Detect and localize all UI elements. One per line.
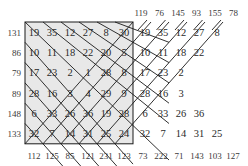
shifted-cell-value: 7	[160, 128, 165, 139]
grid-cell-value: 7	[49, 128, 54, 139]
row-sum-label: 133	[8, 129, 22, 139]
anti-diagonal-sum-label: 145	[171, 8, 185, 18]
column-sum-label: 231	[99, 151, 113, 161]
grid-cell-value: 31	[83, 128, 94, 139]
shifted-cell-value: 10	[140, 47, 151, 58]
grid-cell-value: 9	[121, 88, 126, 99]
shifted-cell-value: 14	[176, 128, 187, 139]
diagonal-sum-label: 73	[139, 151, 149, 161]
diagonal-sum-label: 143	[190, 151, 204, 161]
shifted-cell-value: 17	[140, 67, 151, 78]
shifted-cell-value: 26	[176, 108, 187, 119]
grid-cell-value: 6	[31, 108, 36, 119]
shifted-cell-value: 16	[158, 88, 169, 99]
grid-cell-value: 30	[119, 27, 130, 38]
shifted-cell-value: 35	[158, 27, 169, 38]
anti-diagonal-sum-label: 155	[208, 8, 222, 18]
grid-cell-value: 11	[47, 47, 57, 58]
row-sum-label: 131	[8, 28, 22, 38]
grid-cell-value: 33	[47, 108, 58, 119]
grid-cell-value: 3	[67, 88, 72, 99]
number-grid-diagram: 1935122783010111822205172321288281634299…	[0, 0, 248, 166]
column-sum-label: 121	[81, 151, 95, 161]
anti-diagonal-sum-label: 78	[229, 8, 239, 18]
row-sum-label: 89	[12, 89, 22, 99]
anti-diagonal-sum-label: 93	[192, 8, 202, 18]
grid-cell-value: 28	[119, 108, 130, 119]
shifted-cell-value: 11	[158, 47, 168, 58]
anti-diagonal-sum-label: 119	[134, 8, 148, 18]
shifted-cell-value: 23	[158, 67, 169, 78]
grid-cell-value: 16	[47, 88, 58, 99]
grid-cell-value: 8	[121, 67, 126, 78]
grid-cell-value: 20	[101, 47, 112, 58]
grid-cell-value: 24	[119, 128, 130, 139]
grid-cell-value: 36	[83, 108, 94, 119]
shifted-cell-value: 3	[178, 88, 183, 99]
shifted-cell-value: 33	[158, 108, 169, 119]
shifted-cell-value: 27	[194, 27, 205, 38]
column-sum-label: 123	[117, 151, 131, 161]
shifted-cell-value: 19	[140, 27, 151, 38]
row-sum-label: 79	[12, 68, 22, 78]
diagonal-sum-label: 222	[154, 151, 168, 161]
grid-cell-value: 2	[67, 67, 72, 78]
grid-cell-value: 4	[85, 88, 91, 99]
row-sum-label: 148	[8, 109, 22, 119]
grid-cell-value: 1	[85, 67, 90, 78]
column-sum-label: 125	[45, 151, 59, 161]
grid-cell-value: 12	[65, 27, 76, 38]
shifted-cell-value: 8	[214, 27, 219, 38]
diagonal-sum-label: 71	[175, 151, 184, 161]
column-sum-label: 112	[27, 151, 40, 161]
anti-diagonal-sum-label: 76	[155, 8, 165, 18]
grid-cell-value: 18	[65, 47, 76, 58]
grid-cell-value: 32	[29, 128, 40, 139]
grid-cell-value: 22	[83, 47, 94, 58]
shifted-cell-value: 28	[140, 88, 151, 99]
diagonal-sum-label: 127	[226, 151, 240, 161]
shifted-cell-value: 18	[176, 47, 187, 58]
grid-cell-value: 25	[101, 128, 112, 139]
shifted-cell-value: 31	[194, 128, 205, 139]
diagonal-sum-label: 103	[208, 151, 222, 161]
grid-cell-value: 17	[29, 67, 40, 78]
grid-cell-value: 10	[29, 47, 40, 58]
grid-cell-value: 5	[121, 47, 126, 58]
grid-cell-value: 28	[29, 88, 40, 99]
grid-cell-value: 14	[65, 128, 76, 139]
shifted-cell-value: 25	[212, 128, 223, 139]
grid-cell-value: 23	[47, 67, 58, 78]
grid-cell-value: 26	[65, 108, 76, 119]
grid-cell-value: 19	[29, 27, 40, 38]
grid-cell-value: 27	[83, 27, 94, 38]
shifted-cell-value: 22	[194, 47, 205, 58]
column-sum-label: 85	[66, 151, 76, 161]
grid-cell-value: 35	[47, 27, 58, 38]
grid-cell-value: 8	[103, 27, 108, 38]
grid-cell-value: 29	[101, 88, 112, 99]
grid-cell-value: 19	[101, 108, 112, 119]
grid-cell-value: 28	[101, 67, 112, 78]
shifted-cell-value: 12	[176, 27, 187, 38]
row-sum-label: 86	[12, 48, 22, 58]
shifted-cell-value: 2	[178, 67, 183, 78]
shifted-cell-value: 32	[140, 128, 151, 139]
shifted-cell-value: 36	[194, 108, 205, 119]
shifted-cell-value: 6	[142, 108, 147, 119]
